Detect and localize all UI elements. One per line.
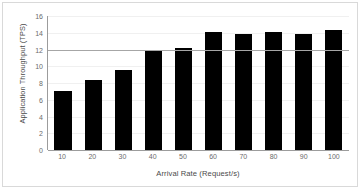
bar <box>325 30 342 150</box>
y-tick-label: 12 <box>35 46 43 53</box>
x-tick-label: 90 <box>289 153 319 160</box>
x-tick-label: 40 <box>138 153 168 160</box>
x-tick-label: 80 <box>258 153 288 160</box>
plot-area <box>47 16 349 150</box>
bar-slot <box>168 16 198 150</box>
y-axis-title: Application Throughput (TPS) <box>18 4 27 144</box>
y-tick-label: 4 <box>39 113 43 120</box>
bar <box>145 51 162 150</box>
y-tick-label: 10 <box>35 63 43 70</box>
bar <box>54 91 71 150</box>
bar <box>85 80 102 150</box>
bar-slot <box>229 16 259 150</box>
y-axis-tick-labels: 0246810121416 <box>27 16 45 150</box>
bar <box>175 48 192 150</box>
y-tick-label: 8 <box>39 80 43 87</box>
bar-slot <box>138 16 168 150</box>
bar <box>235 34 252 150</box>
bar-series <box>48 16 349 150</box>
x-tick-label: 20 <box>77 153 107 160</box>
bar-slot <box>289 16 319 150</box>
bar-slot <box>319 16 349 150</box>
y-tick-label: 0 <box>39 147 43 154</box>
bar-slot <box>198 16 228 150</box>
chart-container: Application Throughput (TPS) 02468101214… <box>2 2 358 187</box>
y-tick-label: 16 <box>35 13 43 20</box>
y-tick-label: 2 <box>39 130 43 137</box>
bar <box>115 70 132 150</box>
bar <box>295 34 312 150</box>
bar-slot <box>78 16 108 150</box>
x-tick-label: 30 <box>107 153 137 160</box>
x-tick-label: 100 <box>319 153 349 160</box>
x-axis-title: Arrival Rate (Request/s) <box>47 169 349 178</box>
axis-baseline <box>48 150 349 151</box>
bar-slot <box>259 16 289 150</box>
x-tick-label: 70 <box>228 153 258 160</box>
x-tick-label: 50 <box>168 153 198 160</box>
x-tick-label: 10 <box>47 153 77 160</box>
x-axis-tick-labels: 102030405060708090100 <box>47 153 349 160</box>
x-tick-label: 60 <box>198 153 228 160</box>
y-tick-label: 6 <box>39 96 43 103</box>
capacity-reference-line <box>48 50 349 52</box>
bar-slot <box>108 16 138 150</box>
y-tick-label: 14 <box>35 29 43 36</box>
bar-slot <box>48 16 78 150</box>
